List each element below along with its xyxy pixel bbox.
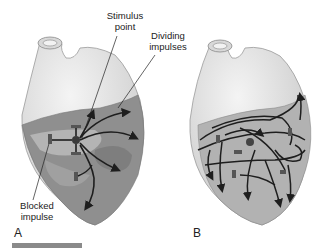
stimulus-label-line-1: Stimulus <box>100 10 150 21</box>
blocked-impulse-label: Blocked impulse <box>14 200 60 222</box>
panel-label-a: A <box>14 226 22 240</box>
dividing-label-line-2: impulses <box>140 41 196 52</box>
blocked-label-line-2: impulse <box>14 211 60 222</box>
heart-a <box>22 36 155 225</box>
heart-b <box>190 40 311 225</box>
panel-label-b: B <box>193 226 201 240</box>
stimulus-point-label: Stimulus point <box>100 10 150 32</box>
dividing-impulses-label: Dividing impulses <box>140 30 196 52</box>
caption-divider <box>12 243 82 248</box>
blocked-label-line-1: Blocked <box>14 200 60 211</box>
reentry-diagram: Stimulus point Dividing impulses Blocked… <box>0 0 326 251</box>
dividing-label-line-1: Dividing <box>140 30 196 41</box>
